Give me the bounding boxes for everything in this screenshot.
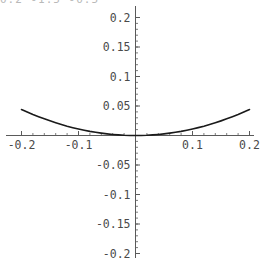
- x-tick-label: 0.1: [182, 138, 203, 152]
- y-tick-label: 0.05: [103, 99, 131, 113]
- y-tick-label: -0.1: [103, 188, 131, 202]
- x-tick-label: -0.2: [8, 138, 36, 152]
- plot-canvas: 0.2 -1.5 -0.5 -0.2-0.10.10.2 -0.2-0.15-0…: [0, 0, 260, 265]
- y-tick-label: -0.2: [103, 247, 131, 261]
- y-tick-label: -0.15: [96, 217, 131, 231]
- x-axis-tick-labels: -0.2-0.10.10.2: [8, 138, 260, 152]
- y-tick-label: -0.05: [96, 158, 131, 172]
- y-tick-label: 0.15: [103, 40, 131, 54]
- parabola-plot: -0.2-0.10.10.2 -0.2-0.15-0.1-0.050.050.1…: [0, 0, 260, 265]
- y-tick-label: 0.2: [110, 11, 131, 25]
- y-tick-label: 0.1: [110, 70, 131, 84]
- x-tick-label: 0.2: [239, 138, 260, 152]
- x-tick-label: -0.1: [65, 138, 93, 152]
